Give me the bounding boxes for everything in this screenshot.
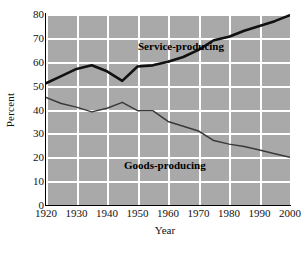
series-label-service: Service-producing <box>138 40 224 52</box>
y-axis-title-text: Percent <box>4 93 16 127</box>
y-tick-label: 60 <box>33 56 44 68</box>
x-tick-label: 1950 <box>127 207 149 219</box>
x-axis-line <box>45 205 291 206</box>
x-tick-label: 1970 <box>188 207 210 219</box>
y-tick-label: 70 <box>33 32 44 44</box>
x-tick-label: 1990 <box>249 207 271 219</box>
y-tick-label: 50 <box>33 80 44 92</box>
series-label-goods: Goods-producing <box>124 159 206 171</box>
y-tick-label: 10 <box>33 175 44 187</box>
x-tick-label: 2000 <box>279 207 301 219</box>
x-tick-label: 1960 <box>157 207 179 219</box>
x-tick-label: 1980 <box>218 207 240 219</box>
plot-area: Service-producing Goods-producing <box>46 14 290 205</box>
x-tick-label: 1920 <box>35 207 57 219</box>
y-tick-label: 40 <box>33 104 44 116</box>
y-tick-label: 80 <box>33 8 44 20</box>
x-tick-label: 1930 <box>66 207 88 219</box>
x-tick-label: 1940 <box>96 207 118 219</box>
x-axis-tick-labels: 192019301940195019601970198019902000 <box>0 207 308 223</box>
y-tick-label: 30 <box>33 127 44 139</box>
y-tick-label: 20 <box>33 151 44 163</box>
x-axis-title-text: Year <box>133 224 175 236</box>
x-axis-title: Year <box>0 224 308 236</box>
series-line-goods <box>46 98 290 158</box>
chart-container: Percent 01020304050607080 Service-produc… <box>0 0 308 257</box>
